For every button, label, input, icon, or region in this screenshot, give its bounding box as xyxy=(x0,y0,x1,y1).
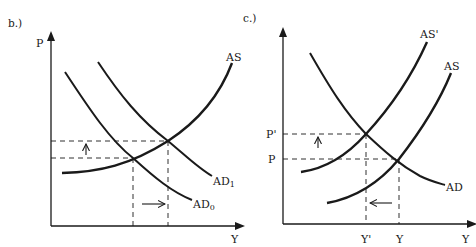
panel-c-y-tick-label: Y xyxy=(395,233,404,246)
panel-c-as-curve xyxy=(327,73,451,203)
panel-c-title: c.) xyxy=(243,12,256,24)
panel-b-as-label: AS xyxy=(225,51,241,64)
panel-c-p-label: P xyxy=(268,153,276,166)
ad-as-diagram: b.) P Y AS AD1 AD0 c.) P' P Y xyxy=(0,0,476,247)
panel-b-as-curve xyxy=(62,63,232,173)
panel-c-y-prime-label: Y' xyxy=(360,233,371,246)
panel-c-p-prime-label: P' xyxy=(266,128,276,141)
panel-c-ad-label: AD xyxy=(445,181,463,194)
panel-b-ad0-curve xyxy=(65,72,192,200)
panel-b-ad0-label: AD0 xyxy=(192,198,215,212)
panel-b-title: b.) xyxy=(8,17,22,29)
panel-c-as-prime-curve xyxy=(301,42,427,172)
panel-c-x-axis-label: Y xyxy=(461,233,470,246)
panel-c-as-prime-label: AS' xyxy=(419,28,439,41)
panel-c: c.) P' P Y' Y Y AS' AS AD xyxy=(243,12,472,246)
panel-b-x-axis-label: Y xyxy=(230,233,239,246)
panel-c-as-label: AS xyxy=(443,60,459,73)
panel-b: b.) P Y AS AD1 AD0 xyxy=(8,17,241,246)
panel-b-y-axis-label: P xyxy=(36,37,44,50)
panel-b-guides xyxy=(51,141,168,226)
panel-b-ad1-label: AD1 xyxy=(212,175,235,189)
panel-c-ad-curve xyxy=(310,53,445,185)
